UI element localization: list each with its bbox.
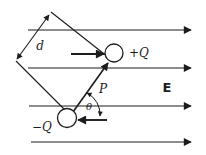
dipole-field-figure: d P θ +Q −Q E <box>0 0 206 155</box>
diagram-canvas: d P θ +Q −Q E <box>0 0 206 155</box>
positive-charge-circle <box>105 44 123 62</box>
label-electric-field-e: E <box>163 80 172 95</box>
lower-parallel-line <box>16 61 70 115</box>
negative-charge-circle <box>58 109 77 128</box>
label-positive-charge: +Q <box>129 46 149 60</box>
label-separation-d: d <box>36 39 44 53</box>
upper-parallel-line <box>51 12 108 57</box>
label-angle-theta: θ <box>86 101 92 112</box>
label-dipole-moment-p: P <box>98 82 108 96</box>
label-negative-charge: −Q <box>32 120 52 134</box>
separation-dimension-arrow <box>17 15 49 59</box>
